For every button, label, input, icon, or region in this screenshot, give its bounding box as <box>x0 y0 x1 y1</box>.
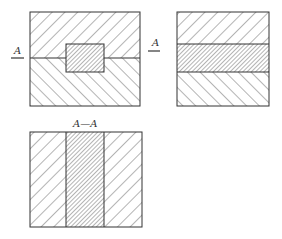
cut-label-right: A <box>151 37 159 48</box>
section-diagram: A A A—A <box>0 0 282 239</box>
cut-label-left: A <box>13 45 21 56</box>
insert-region <box>66 44 104 72</box>
section-right <box>104 132 142 227</box>
section-title: A—A <box>72 118 97 129</box>
section-view: A—A <box>30 118 142 227</box>
section-left <box>30 132 66 227</box>
cut-mark-left: A <box>11 45 24 58</box>
side-upper <box>177 12 269 44</box>
front-view <box>30 12 140 106</box>
side-view <box>177 12 269 106</box>
side-lower <box>177 72 269 106</box>
section-band <box>66 132 104 227</box>
cut-mark-right: A <box>148 37 160 51</box>
side-band <box>177 44 269 72</box>
